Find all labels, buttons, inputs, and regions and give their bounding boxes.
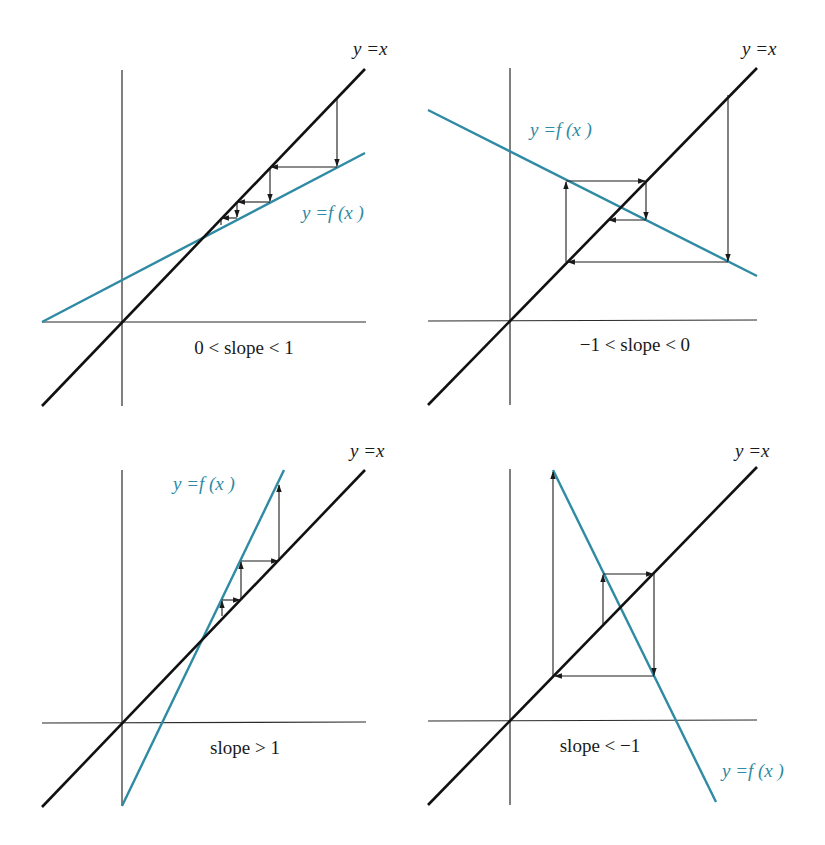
panel-slope-less-than-neg1: y =x y =f (x ) slope < −1 xyxy=(428,440,784,805)
identity-label: y =x xyxy=(740,38,777,59)
identity-label: y =x xyxy=(348,440,385,461)
slope-caption: −1 < slope < 0 xyxy=(580,334,690,355)
f-label: y =f (x ) xyxy=(171,473,235,495)
x-axis xyxy=(428,320,757,321)
panel-slope-greater-than-1: y =x y =f (x ) slope > 1 xyxy=(42,440,385,807)
x-axis xyxy=(428,720,757,721)
f-label: y =f (x ) xyxy=(528,119,592,141)
cobweb-diagrams: y =x y =f (x ) 0 < slope < 1 y =x y =f (… xyxy=(0,0,825,845)
identity-line xyxy=(42,470,365,807)
f-label: y =f (x ) xyxy=(720,760,784,782)
slope-caption: slope > 1 xyxy=(210,737,280,758)
f-line xyxy=(428,110,757,276)
slope-caption: slope < −1 xyxy=(560,735,641,756)
cobweb-path xyxy=(222,485,279,616)
identity-label: y =x xyxy=(351,38,388,59)
panel-slope-between-neg1-and-0: y =x y =f (x ) −1 < slope < 0 xyxy=(428,38,777,405)
panel-slope-between-0-and-1: y =x y =f (x ) 0 < slope < 1 xyxy=(42,38,388,406)
identity-label: y =x xyxy=(733,440,770,461)
f-label: y =f (x ) xyxy=(300,202,364,224)
x-axis xyxy=(42,722,366,723)
slope-caption: 0 < slope < 1 xyxy=(194,337,294,358)
